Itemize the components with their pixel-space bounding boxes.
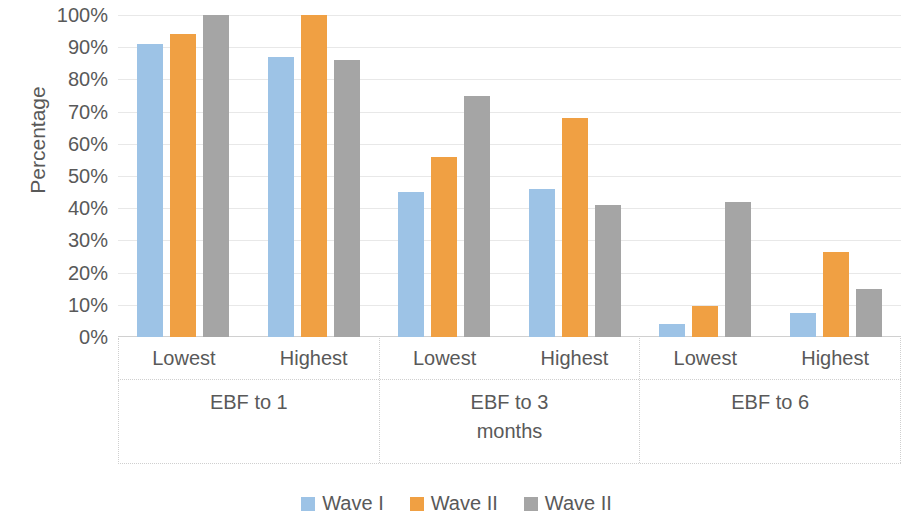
y-axis-tick-label: 80% [34, 69, 108, 89]
category-group: LowestHighest [119, 338, 380, 379]
group-label-line: EBF to 1 [210, 388, 288, 417]
legend-label: Wave II [431, 492, 498, 515]
bar[interactable] [334, 60, 360, 337]
y-axis-tick-label: 10% [34, 295, 108, 315]
y-axis-tick-label: 70% [34, 102, 108, 122]
group-label: EBF to 6 [640, 380, 901, 463]
category-label: Highest [770, 338, 900, 379]
bar[interactable] [170, 34, 196, 337]
legend-label: Wave II [545, 492, 612, 515]
bar-cluster [118, 15, 249, 337]
y-axis-tick-label: 20% [34, 263, 108, 283]
category-label: Highest [510, 338, 640, 379]
group-label-line: EBF to 6 [731, 388, 809, 417]
legend-item[interactable]: Wave II [524, 492, 612, 515]
bar[interactable] [529, 189, 555, 337]
bar-cluster [771, 15, 902, 337]
bar[interactable] [725, 202, 751, 337]
bar[interactable] [790, 313, 816, 337]
bar[interactable] [137, 44, 163, 337]
legend-label: Wave I [322, 492, 384, 515]
bar-chart: Percentage 100%90%80%70%60%50%40%30%20%1… [0, 0, 913, 528]
bar-cluster [510, 15, 641, 337]
bar[interactable] [431, 157, 457, 337]
bar[interactable] [856, 289, 882, 337]
bar-group [379, 15, 640, 337]
category-label: Lowest [119, 338, 249, 379]
bar-group [118, 15, 379, 337]
bar-groups [118, 15, 901, 337]
bar[interactable] [268, 57, 294, 337]
group-label: EBF to 3months [380, 380, 641, 463]
category-label: Lowest [380, 338, 510, 379]
legend-item[interactable]: Wave II [410, 492, 498, 515]
category-label: Lowest [640, 338, 770, 379]
y-axis-tick-label: 50% [34, 166, 108, 186]
y-axis-tick-label: 100% [34, 5, 108, 25]
chart-legend: Wave IWave IIWave II [0, 492, 913, 515]
y-axis-tick-label: 0% [34, 327, 108, 347]
category-label-band: LowestHighestLowestHighestLowestHighest [118, 338, 901, 380]
bar[interactable] [595, 205, 621, 337]
group-label-text: EBF to 1 [210, 388, 288, 417]
bar-cluster [640, 15, 771, 337]
bar[interactable] [659, 324, 685, 337]
bar-group [640, 15, 901, 337]
y-axis-tick-label: 40% [34, 198, 108, 218]
group-label-text: EBF to 6 [731, 388, 809, 417]
bar[interactable] [562, 118, 588, 337]
bar[interactable] [301, 15, 327, 337]
bar[interactable] [203, 15, 229, 337]
group-label-line: months [471, 417, 549, 446]
y-axis-tick-label: 60% [34, 134, 108, 154]
bar[interactable] [464, 96, 490, 338]
y-axis-tick-labels: 100%90%80%70%60%50%40%30%20%10%0% [34, 0, 108, 338]
bar[interactable] [692, 306, 718, 337]
y-axis-tick-label: 30% [34, 230, 108, 250]
legend-swatch-icon [524, 497, 538, 511]
bar-cluster [249, 15, 380, 337]
bar-cluster [379, 15, 510, 337]
y-axis-tick-label: 90% [34, 37, 108, 57]
group-label: EBF to 1 [119, 380, 380, 463]
group-label-line: EBF to 3 [471, 388, 549, 417]
bar[interactable] [398, 192, 424, 337]
plot-area [118, 15, 901, 337]
legend-swatch-icon [410, 497, 424, 511]
legend-item[interactable]: Wave I [301, 492, 384, 515]
bar[interactable] [823, 252, 849, 337]
category-group: LowestHighest [380, 338, 641, 379]
category-group: LowestHighest [640, 338, 901, 379]
category-label: Highest [249, 338, 379, 379]
group-label-band: EBF to 1EBF to 3monthsEBF to 6 [118, 380, 901, 464]
group-label-text: EBF to 3months [471, 388, 549, 446]
legend-swatch-icon [301, 497, 315, 511]
